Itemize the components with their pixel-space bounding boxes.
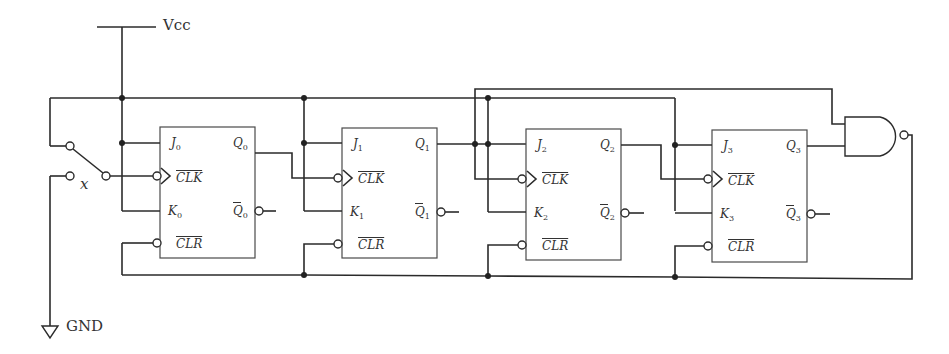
- ff3-k-label: K3: [720, 208, 734, 223]
- ff1-qbar-label: Q1: [415, 206, 430, 221]
- ff3-clk-label: CLK: [728, 175, 754, 187]
- ff1-clr-label: CLR: [358, 239, 384, 251]
- ff2-k-label: K2: [534, 207, 548, 222]
- switch-contact-top[interactable]: [66, 142, 74, 150]
- ff0-j-label: J0: [171, 137, 181, 152]
- ff1-q-label: Q1: [415, 138, 430, 153]
- gnd-icon: [42, 326, 58, 338]
- ff2-clk-label: CLK: [542, 174, 568, 186]
- nand-output-bubble: [900, 131, 908, 139]
- ff3-clr-label: CLR: [728, 241, 754, 253]
- ff0-clr-label: CLR: [176, 238, 202, 250]
- ff2-qbar-label: Q2: [600, 207, 615, 222]
- clear-rail-wire: [122, 275, 675, 277]
- ff2-q-label: Q2: [600, 139, 615, 154]
- switch-label: x: [80, 177, 88, 192]
- nand-gate: [845, 117, 896, 156]
- circuit-schematic: [0, 0, 949, 354]
- ff3-qbar-label: Q3: [786, 208, 801, 223]
- ff0-clk-label: CLK: [176, 172, 202, 184]
- vcc-label: Vcc: [163, 18, 191, 33]
- ff2-clr-label: CLR: [542, 240, 568, 252]
- ff1-clk-label: CLK: [358, 173, 384, 185]
- ff1-j-label: J1: [353, 138, 363, 153]
- ff0-qbar-label: Q0: [233, 205, 248, 220]
- ff3-q-label: Q3: [786, 140, 801, 155]
- ff1-k-label: K1: [350, 206, 364, 221]
- switch-common[interactable]: [102, 172, 110, 180]
- gnd-label: GND: [66, 319, 103, 334]
- ff0-q-label: Q0: [233, 137, 248, 152]
- switch-contact-bottom[interactable]: [66, 172, 74, 180]
- ff0-k-label: K0: [168, 205, 182, 220]
- ff2-j-label: J2: [537, 139, 547, 154]
- switch-lever[interactable]: [73, 149, 103, 173]
- ff3-j-label: J3: [723, 140, 733, 155]
